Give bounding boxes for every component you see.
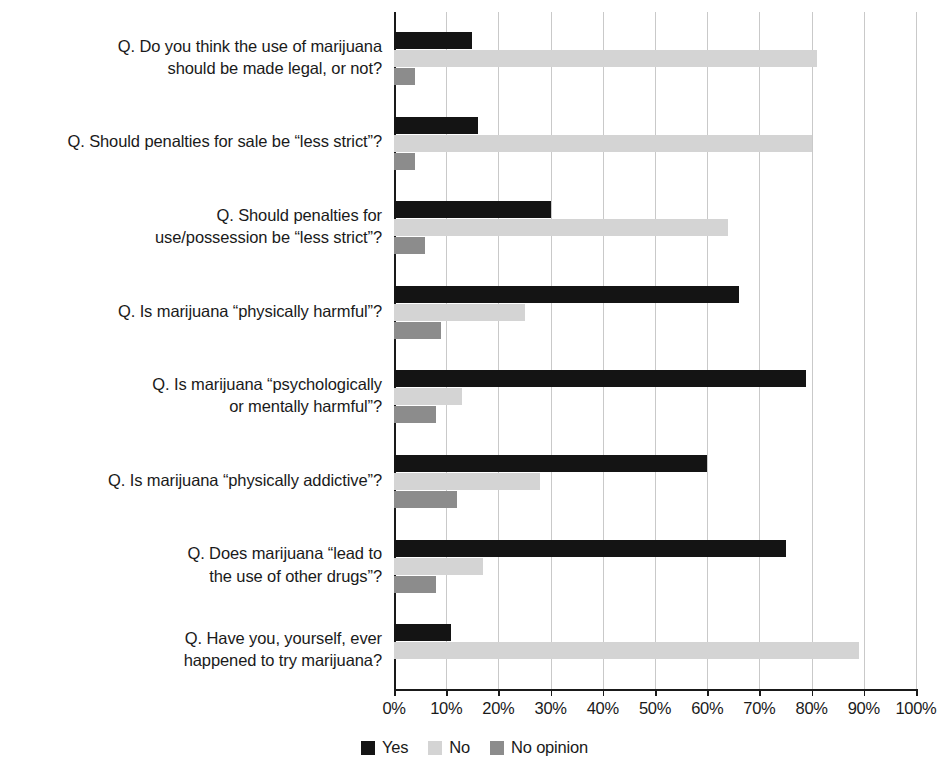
bar-yes <box>394 370 806 387</box>
bar-no <box>394 304 525 321</box>
legend-label: No opinion <box>511 738 588 757</box>
bar-noopinion <box>394 68 415 85</box>
bar-group <box>394 624 916 678</box>
x-axis-tick <box>655 689 657 696</box>
legend-swatch-icon <box>428 741 442 755</box>
bar-no <box>394 558 483 575</box>
category-label-line: Q. Should penalties for sale be “less st… <box>0 130 382 153</box>
legend-swatch-icon <box>361 741 375 755</box>
x-axis-tick-label: 0% <box>364 699 424 718</box>
bar-noopinion <box>394 322 441 339</box>
category-label-line: Q. Do you think the use of marijuana <box>0 35 382 58</box>
x-axis-tick-label: 20% <box>468 699 528 718</box>
x-axis-tick-label: 50% <box>625 699 685 718</box>
bar-noopinion <box>394 406 436 423</box>
category-label-line: Q. Have you, yourself, ever <box>0 627 382 650</box>
category-label-line: Q. Does marijuana “lead to <box>0 542 382 565</box>
category-label: Q. Is marijuana “physically addictive”? <box>0 469 382 492</box>
category-label-line: Q. Is marijuana “physically addictive”? <box>0 469 382 492</box>
bar-noopinion <box>394 491 457 508</box>
x-axis-tick <box>603 689 605 696</box>
category-label-line: should be made legal, or not? <box>0 57 382 80</box>
bar-chart: Q. Do you think the use of marijuanashou… <box>0 0 949 768</box>
gridline <box>916 12 917 689</box>
bar-yes <box>394 32 472 49</box>
bar-no <box>394 219 728 236</box>
category-label: Q. Should penalties foruse/possession be… <box>0 204 382 249</box>
bar-group <box>394 370 916 424</box>
bar-noopinion <box>394 576 436 593</box>
bar-group <box>394 32 916 86</box>
x-axis-tick <box>916 689 918 696</box>
category-label: Q. Do you think the use of marijuanashou… <box>0 35 382 80</box>
bar-yes <box>394 624 451 641</box>
x-axis-tick-label: 60% <box>677 699 737 718</box>
x-axis-tick-label: 10% <box>416 699 476 718</box>
x-axis-tick-label: 70% <box>729 699 789 718</box>
bar-noopinion <box>394 237 425 254</box>
category-label-line: Q. Is marijuana “psychologically <box>0 373 382 396</box>
category-label: Q. Does marijuana “lead tothe use of oth… <box>0 542 382 587</box>
bar-no <box>394 388 462 405</box>
bar-noopinion <box>394 153 415 170</box>
category-label: Q. Have you, yourself, everhappened to t… <box>0 627 382 672</box>
plot-area <box>394 12 916 689</box>
bar-no <box>394 642 859 659</box>
x-axis-tick <box>551 689 553 696</box>
category-label: Q. Should penalties for sale be “less st… <box>0 130 382 153</box>
legend-label: Yes <box>382 738 408 757</box>
bar-no <box>394 473 540 490</box>
category-label-line: happened to try marijuana? <box>0 649 382 672</box>
bar-yes <box>394 455 707 472</box>
bar-group <box>394 117 916 171</box>
category-label-line: the use of other drugs”? <box>0 565 382 588</box>
x-axis-tick <box>394 689 396 696</box>
bar-yes <box>394 286 739 303</box>
legend-label: No <box>449 738 470 757</box>
x-axis-tick-label: 100% <box>886 699 946 718</box>
x-axis-tick-label: 40% <box>573 699 633 718</box>
bar-yes <box>394 117 478 134</box>
bar-no <box>394 135 812 152</box>
x-axis-tick-label: 90% <box>834 699 894 718</box>
legend-item[interactable]: Yes <box>361 738 408 757</box>
bar-no <box>394 50 817 67</box>
x-axis-tick <box>707 689 709 696</box>
chart-legend: YesNoNo opinion <box>0 738 949 757</box>
bar-group <box>394 540 916 594</box>
x-axis-tick <box>759 689 761 696</box>
x-axis-tick <box>498 689 500 696</box>
bar-group <box>394 455 916 509</box>
x-axis-tick <box>446 689 448 696</box>
category-label-line: or mentally harmful”? <box>0 395 382 418</box>
legend-swatch-icon <box>490 741 504 755</box>
x-axis-tick <box>864 689 866 696</box>
bar-group <box>394 201 916 255</box>
category-label: Q. Is marijuana “physically harmful”? <box>0 300 382 323</box>
legend-item[interactable]: No opinion <box>490 738 588 757</box>
category-label-line: use/possession be “less strict”? <box>0 226 382 249</box>
bar-yes <box>394 201 551 218</box>
x-axis-tick-label: 30% <box>521 699 581 718</box>
legend-item[interactable]: No <box>428 738 470 757</box>
bar-group <box>394 286 916 340</box>
bar-yes <box>394 540 786 557</box>
category-label-line: Q. Should penalties for <box>0 204 382 227</box>
x-axis-tick-label: 80% <box>782 699 842 718</box>
x-axis-tick <box>812 689 814 696</box>
category-label: Q. Is marijuana “psychologicallyor menta… <box>0 373 382 418</box>
category-label-line: Q. Is marijuana “physically harmful”? <box>0 300 382 323</box>
